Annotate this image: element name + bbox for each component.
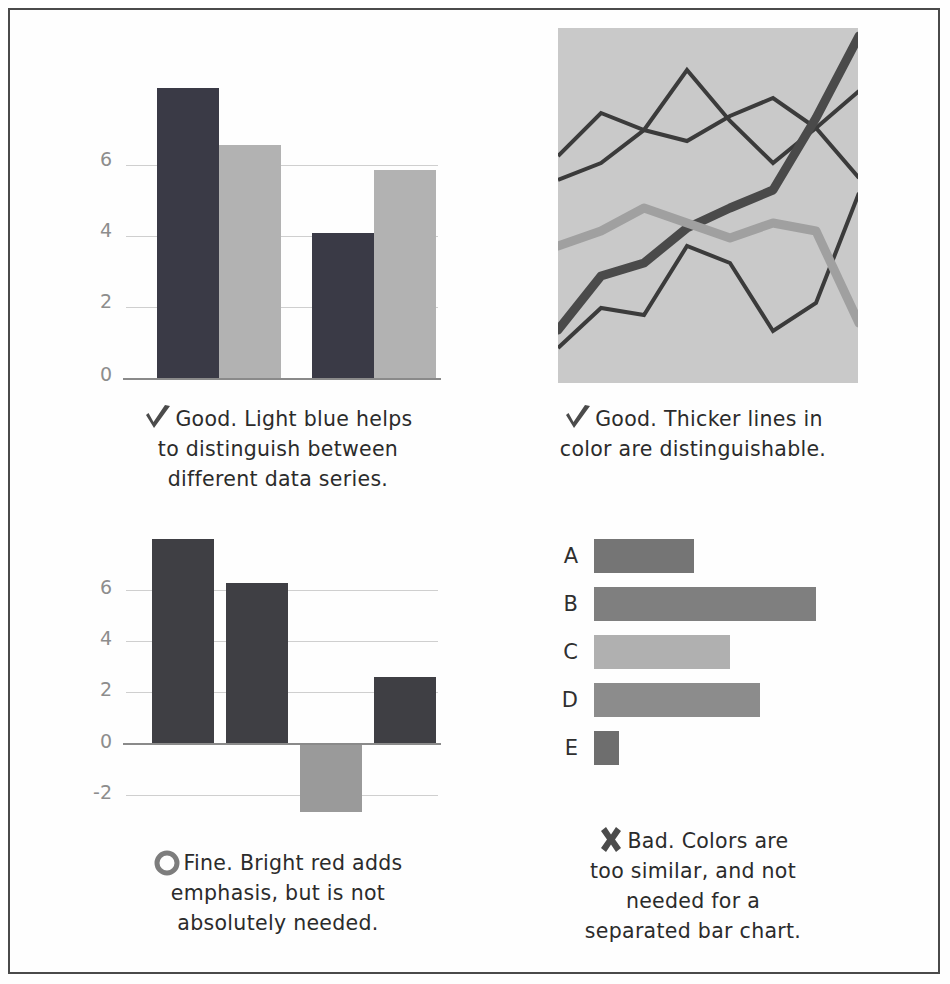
hbar-label-D: D [548,688,578,712]
y-axis-tick-4: 4 [78,627,112,649]
checkmark-icon [563,404,593,432]
line-thick-dark [558,36,859,330]
panel-horizontal-bar-similar-colors: A B C D [488,508,898,963]
caption-line-4: separated bar chart. [585,919,801,943]
line-series-svg [488,18,898,388]
hbar-bar-D [594,683,760,717]
y-axis-tick-6: 6 [78,148,112,170]
line-thin-1 [558,98,859,178]
caption-line-1: Good. Thicker lines in [595,407,823,431]
caption-line-chart: Good. Thicker lines in color are disting… [488,404,898,464]
bar-series2-group2 [374,170,436,378]
bar-series1-group2 [312,233,374,378]
bar-D [374,677,436,743]
hbar-bar-A [594,539,694,573]
hbar-row-C: C [548,632,848,672]
y-axis-tick-6: 6 [78,576,112,598]
hbar-bar-E [594,731,619,765]
caption-bar-negative: Fine. Bright red adds emphasis, but is n… [78,848,478,938]
caption-line-1: Fine. Bright red adds [183,851,402,875]
y-axis-tick-2: 2 [78,290,112,312]
caption-line-2: to distinguish between [158,437,398,461]
caption-line-3: different data series. [168,467,388,491]
panel-line-chart-thick-lines: Good. Thicker lines in color are disting… [488,18,898,508]
hbar-bar-B [594,587,816,621]
y-axis-tick-4: 4 [78,219,112,241]
hbar-row-E: E [548,728,848,768]
y-axis-tick-2: 2 [78,678,112,700]
hbar-label-A: A [548,544,578,568]
bar-A [152,539,214,743]
y-axis-tick-0: 0 [78,730,112,752]
circle-icon [153,848,181,876]
chart-horizontal-bar: A B C D [488,508,898,816]
cross-icon [597,826,625,854]
chart-bar-negative: 6 4 2 0 -2 [78,508,478,828]
hbar-bar-C [594,635,730,669]
chart-grouped-bar: 6 4 2 0 [78,18,478,388]
plot-area-bar-negative [126,508,438,828]
checkmark-icon [143,404,173,432]
bar-series2-group1 [219,145,281,378]
y-axis-tick-neg2: -2 [78,781,112,803]
bar-series1-group1 [157,88,219,378]
caption-line-3: needed for a [626,889,760,913]
plot-area-grouped-bar [126,18,438,378]
hbar-row-B: B [548,584,848,624]
panel-bar-chart-bright-red: 6 4 2 0 -2 [78,508,478,963]
chart-line [488,18,898,388]
hbar-row-D: D [548,680,848,720]
x-axis-baseline [123,378,441,380]
caption-line-1: Bad. Colors are [627,829,788,853]
caption-line-3: absolutely needed. [177,911,378,935]
hbar-label-B: B [548,592,578,616]
caption-line-2: too similar, and not [590,859,796,883]
y-axis-tick-0: 0 [78,363,112,385]
caption-line-1: Good. Light blue helps [175,407,412,431]
zero-baseline [123,743,441,745]
bar-B [226,583,288,743]
hbar-label-C: C [548,640,578,664]
page-root: 6 4 2 0 [0,0,950,984]
bar-C [300,743,362,812]
hbar-row-A: A [548,536,848,576]
panel-grouped-bar-light-blue: 6 4 2 0 [78,18,478,508]
caption-line-2: emphasis, but is not [171,881,385,905]
plot-area-hbar: A B C D [548,536,888,776]
panel-grid: 6 4 2 0 [8,8,940,974]
caption-grouped-bar: Good. Light blue helps to distinguish be… [78,404,478,494]
caption-line-2: color are distinguishable. [560,437,826,461]
hbar-label-E: E [548,736,578,760]
caption-horizontal-bar: Bad. Colors are too similar, and not nee… [488,826,898,946]
